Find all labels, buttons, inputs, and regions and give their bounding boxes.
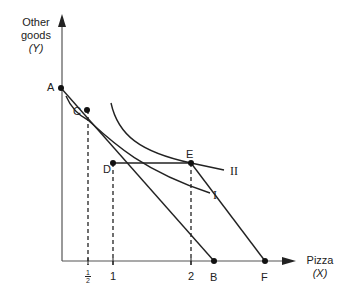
point-f — [262, 258, 268, 264]
label-curve-ii: II — [230, 165, 238, 177]
x-axis-arrow-icon — [282, 257, 296, 265]
label-b: B — [210, 272, 217, 283]
budget-line-ab — [61, 88, 214, 261]
label-f: F — [261, 272, 268, 283]
point-b — [211, 258, 217, 264]
indifference-curve-ii — [111, 103, 224, 170]
x-axis-title-line2: (X) — [300, 267, 340, 280]
y-axis-title: Other goods (Y) — [14, 16, 58, 55]
budget-line-ef — [191, 163, 265, 261]
label-e: E — [186, 149, 193, 160]
tick-label-two: 2 — [188, 271, 194, 282]
y-axis-title-line2: goods — [14, 29, 58, 42]
label-curve-i: I — [213, 189, 217, 201]
point-c — [84, 107, 90, 113]
label-c: C — [73, 106, 81, 117]
tick-half-denominator: 2 — [86, 277, 90, 284]
tick-label-one: 1 — [110, 271, 116, 282]
y-axis-arrow-icon — [58, 14, 66, 27]
point-e — [188, 160, 194, 166]
label-a: A — [47, 82, 54, 93]
label-d: D — [103, 164, 111, 175]
tick-half-numerator: 1 — [86, 269, 90, 276]
y-axis-title-line1: Other — [14, 16, 58, 29]
tick-label-half: 1 2 — [84, 269, 92, 284]
x-axis-title: Pizza (X) — [300, 254, 340, 280]
point-a — [58, 85, 64, 91]
y-axis-title-line3: (Y) — [14, 42, 58, 55]
x-axis-title-line1: Pizza — [300, 254, 340, 267]
